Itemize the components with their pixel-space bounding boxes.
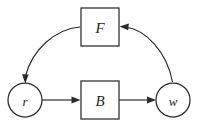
node-F[interactable]: F bbox=[81, 8, 119, 46]
node-B[interactable]: B bbox=[81, 81, 119, 119]
edge-F-to-r-arrowhead bbox=[22, 74, 29, 83]
edge-r-to-B bbox=[42, 97, 81, 104]
diagram-svg: F B r w bbox=[0, 0, 198, 129]
node-r[interactable]: r bbox=[8, 83, 42, 117]
block-diagram-canvas: F B r w bbox=[0, 0, 198, 129]
node-w[interactable]: w bbox=[156, 83, 190, 117]
edge-F-to-r-path bbox=[26, 27, 81, 76]
edge-B-to-w-arrowhead bbox=[147, 97, 156, 104]
edge-w-to-F bbox=[120, 24, 173, 82]
node-B-label: B bbox=[95, 93, 104, 109]
edge-w-to-F-path bbox=[126, 27, 173, 82]
edge-B-to-w bbox=[119, 97, 156, 104]
node-w-label: w bbox=[169, 94, 178, 109]
edge-F-to-r bbox=[22, 27, 80, 84]
node-F-label: F bbox=[94, 20, 105, 36]
edge-w-to-F-arrowhead bbox=[120, 24, 129, 31]
edge-r-to-B-arrowhead bbox=[72, 97, 81, 104]
